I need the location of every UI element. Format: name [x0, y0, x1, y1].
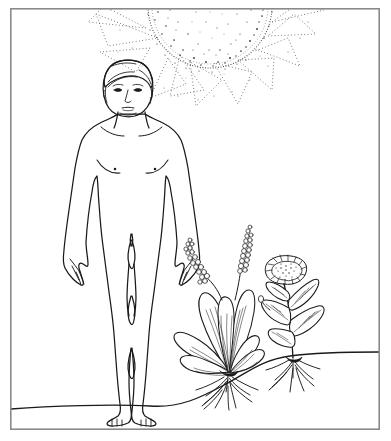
figure-nipple-right [154, 168, 157, 171]
eye-left [114, 89, 122, 92]
figure-nipple-left [114, 168, 117, 171]
eye-right [134, 89, 142, 92]
primrose-flower-head [265, 255, 306, 285]
line-drawing-canvas [0, 0, 391, 441]
illustration-stage: Human figure with sun and two herb plant… [0, 0, 391, 441]
